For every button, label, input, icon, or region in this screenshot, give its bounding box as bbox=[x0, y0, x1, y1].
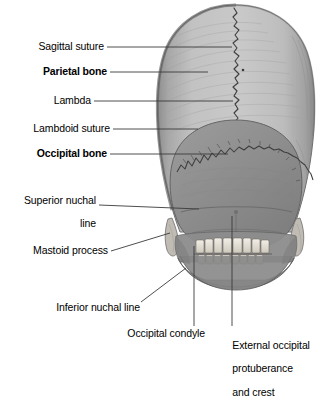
label-external-occipital-row1: External occipital bbox=[232, 339, 310, 351]
label-lambdoid-suture: Lambdoid suture bbox=[33, 123, 110, 135]
label-occipital-condyle: Occipital condyle bbox=[127, 328, 205, 340]
leader-mastoid-process bbox=[111, 233, 170, 251]
label-external-occipital-row3: and crest bbox=[232, 386, 274, 398]
leader-inferior-nuchal-line bbox=[141, 268, 186, 302]
label-sagittal-suture: Sagittal suture bbox=[38, 41, 104, 53]
label-superior-nuchal-line-row1: Superior nuchal bbox=[24, 194, 96, 206]
label-superior-nuchal-line: Superior nuchal line bbox=[13, 183, 96, 242]
label-occipital-bone: Occipital bone bbox=[37, 148, 107, 160]
jaw-and-teeth-region bbox=[175, 232, 297, 291]
label-lambda: Lambda bbox=[54, 95, 91, 107]
label-external-occipital-row2: protuberance bbox=[232, 362, 293, 374]
external-occipital-protuberance-feature bbox=[234, 210, 238, 214]
label-mastoid-process: Mastoid process bbox=[33, 245, 108, 257]
label-parietal-bone: Parietal bone bbox=[43, 66, 107, 78]
label-superior-nuchal-line-row2: line bbox=[80, 217, 96, 229]
label-inferior-nuchal-line: Inferior nuchal line bbox=[56, 302, 140, 314]
label-external-occipital-protuberance: External occipital protuberance and cres… bbox=[221, 328, 310, 400]
